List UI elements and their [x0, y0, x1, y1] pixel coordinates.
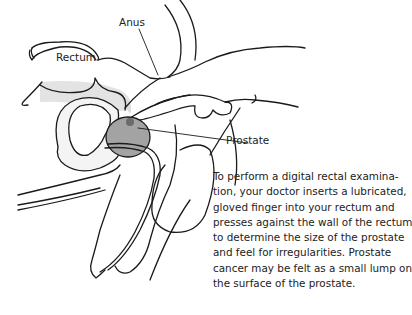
caption-line: To perform a digital rectal examina- [213, 169, 403, 184]
figure-caption: To perform a digital rectal examina- tio… [213, 169, 403, 291]
label-anus: Anus [119, 17, 145, 28]
caption-line: tion, your doctor inserts a lubricated, [213, 184, 403, 199]
caption-line: and feel for irregularities. Prostate [213, 245, 403, 260]
caption-line: to determine the size of the prostate [213, 230, 403, 245]
caption-line: the surface of the prostate. [213, 276, 403, 291]
caption-line: presses against the wall of the rectum [213, 215, 403, 230]
label-prostate: Prostate [226, 135, 269, 146]
caption-line: gloved finger into your rectum and [213, 200, 403, 215]
caption-line: cancer may be felt as a small lump on [213, 261, 403, 276]
label-rectum: Rectum [56, 52, 96, 63]
